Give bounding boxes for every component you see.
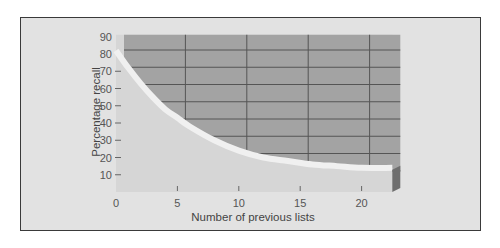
plot-area: [116, 35, 400, 192]
x-tick-label: 10: [233, 197, 245, 209]
y-axis-title: Percentage recall: [90, 67, 102, 157]
x-tick-label: 0: [113, 197, 119, 209]
y-tick-label: 90: [100, 31, 112, 43]
x-tick-label: 5: [174, 197, 180, 209]
x-tick-label: 20: [355, 197, 367, 209]
y-tick-label: 80: [100, 48, 112, 60]
side-slab: [392, 166, 400, 192]
x-axis-title: Number of previous lists: [191, 211, 315, 223]
recall-chart: 102030405060708090 05101520 Percentage r…: [0, 0, 500, 248]
y-tick-label: 10: [100, 169, 112, 181]
x-tick-label: 15: [294, 197, 306, 209]
